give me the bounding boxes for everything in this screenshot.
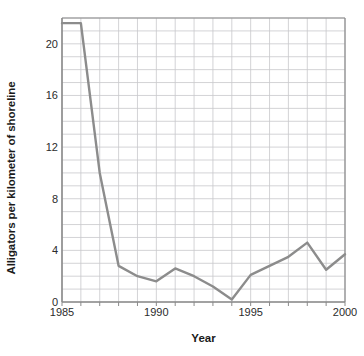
x-axis-tick-label: 1995 — [238, 306, 262, 318]
line-chart: Alligators per kilometer of shoreline 04… — [0, 0, 364, 356]
x-axis-tick-label: 1985 — [50, 306, 74, 318]
x-axis-tick-label: 2000 — [333, 306, 357, 318]
data-series-line — [62, 23, 345, 299]
y-axis-tick-labels: 048121620 — [28, 0, 58, 356]
x-axis-title: Year — [62, 332, 345, 344]
y-axis-tick-label: 20 — [32, 38, 58, 50]
y-axis-tick-label: 8 — [32, 193, 58, 205]
y-axis-tick-label: 12 — [32, 141, 58, 153]
y-axis-tick-label: 4 — [32, 244, 58, 256]
x-axis-tick-label: 1990 — [144, 306, 168, 318]
y-axis-tick-label: 16 — [32, 89, 58, 101]
